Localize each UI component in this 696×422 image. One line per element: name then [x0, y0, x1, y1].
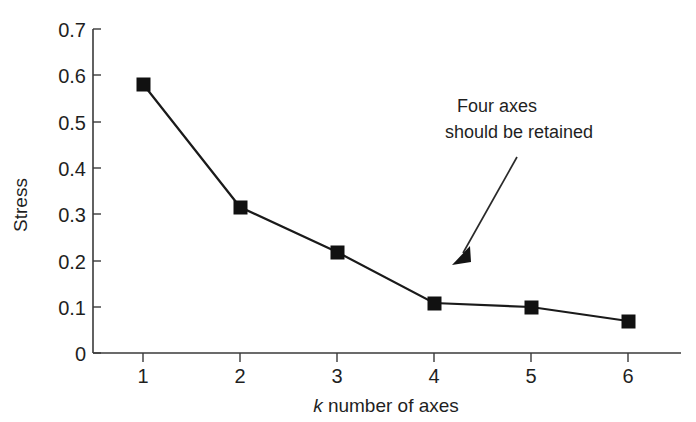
x-tick-label-1: 1 — [137, 365, 148, 387]
plot-canvas: 0.7 0.6 0.5 0.4 0.3 0.2 0.1 0 1 2 3 4 5 … — [0, 0, 696, 422]
series-line-stress — [143, 84, 628, 321]
y-tick-label-0.1: 0.1 — [58, 297, 86, 319]
data-point-2 — [234, 201, 247, 214]
annotation-arrow-head-icon — [452, 246, 471, 265]
y-tick-label-0: 0 — [75, 343, 86, 365]
y-tick-label-0.3: 0.3 — [58, 204, 86, 226]
data-point-4 — [428, 297, 441, 310]
y-tick-label-0.4: 0.4 — [58, 158, 86, 180]
annotation-line-1: Four axes — [457, 96, 537, 116]
x-tick-label-3: 3 — [331, 365, 342, 387]
x-axis-title-rest: number of axes — [323, 395, 459, 416]
annotation-line-2: should be retained — [445, 122, 593, 142]
y-tick-label-0.5: 0.5 — [58, 112, 86, 134]
y-axis-title: Stress — [10, 178, 31, 232]
annotation-arrow — [452, 157, 517, 265]
x-tick-label-5: 5 — [525, 365, 536, 387]
y-tick-label-0.6: 0.6 — [58, 65, 86, 87]
data-point-1 — [137, 78, 150, 91]
annotation-arrow-shaft — [463, 157, 517, 253]
x-tick-label-4: 4 — [428, 365, 439, 387]
data-point-3 — [331, 246, 344, 259]
y-tick-label-0.7: 0.7 — [58, 19, 86, 41]
stress-scree-plot: 0.7 0.6 0.5 0.4 0.3 0.2 0.1 0 1 2 3 4 5 … — [0, 0, 696, 422]
data-point-6 — [622, 315, 635, 328]
x-tick-label-2: 2 — [234, 365, 245, 387]
data-point-5 — [525, 301, 538, 314]
x-tick-label-6: 6 — [622, 365, 633, 387]
y-tick-label-0.2: 0.2 — [58, 251, 86, 273]
x-axis-title: k number of axes — [313, 395, 459, 416]
